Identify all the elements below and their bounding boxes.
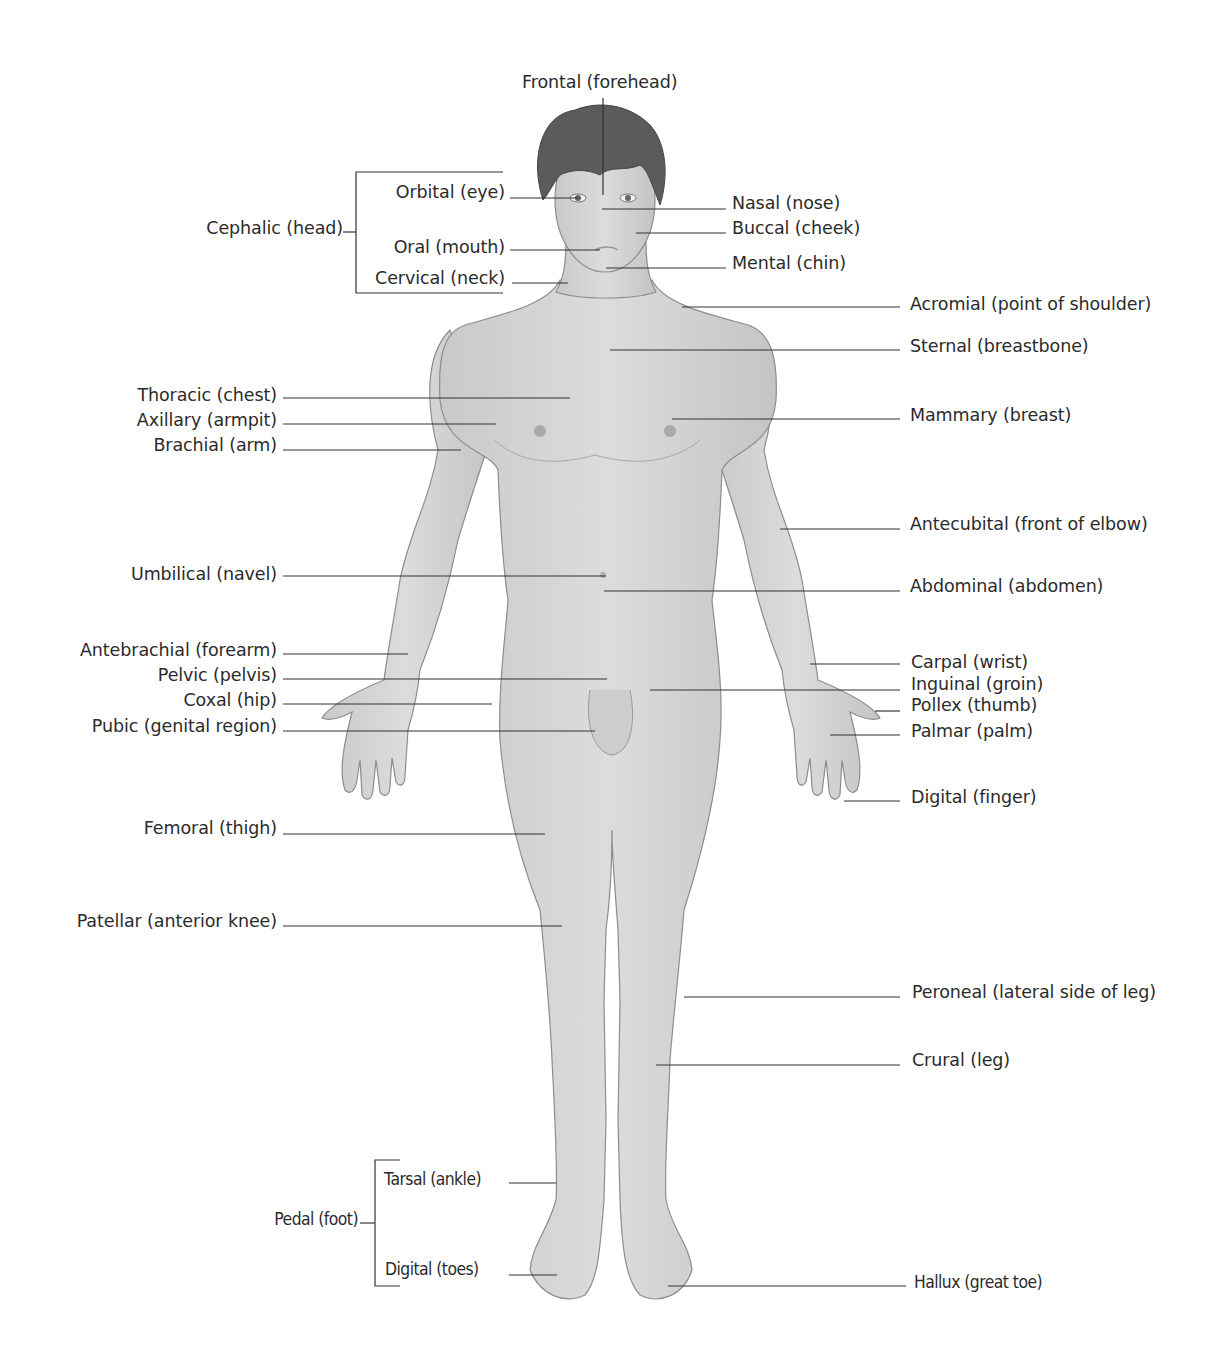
- label-thoracic: Thoracic (chest): [137, 385, 277, 405]
- label-crural: Crural (leg): [912, 1050, 1010, 1070]
- label-abdominal: Abdominal (abdomen): [910, 576, 1103, 596]
- label-acromial: Acromial (point of shoulder): [910, 294, 1151, 314]
- label-patellar: Patellar (anterior knee): [77, 911, 277, 931]
- label-umbilical: Umbilical (navel): [131, 564, 277, 584]
- label-peroneal: Peroneal (lateral side of leg): [912, 982, 1156, 1002]
- label-inguinal: Inguinal (groin): [911, 674, 1043, 694]
- label-digital-finger: Digital (finger): [911, 787, 1037, 807]
- label-digital-toes: Digital (toes): [385, 1259, 479, 1279]
- label-cervical: Cervical (neck): [375, 268, 505, 288]
- label-axillary: Axillary (armpit): [137, 410, 277, 430]
- label-pelvic: Pelvic (pelvis): [158, 665, 277, 685]
- label-pollex: Pollex (thumb): [911, 695, 1037, 715]
- label-carpal: Carpal (wrist): [911, 652, 1028, 672]
- label-buccal: Buccal (cheek): [732, 218, 860, 238]
- label-frontal: Frontal (forehead): [522, 72, 677, 92]
- label-tarsal: Tarsal (ankle): [384, 1169, 481, 1189]
- label-oral: Oral (mouth): [394, 237, 505, 257]
- label-coxal: Coxal (hip): [183, 690, 277, 710]
- label-pedal: Pedal (foot): [274, 1209, 358, 1229]
- label-mental: Mental (chin): [732, 253, 846, 273]
- label-femoral: Femoral (thigh): [144, 818, 277, 838]
- label-antebrachial: Antebrachial (forearm): [80, 640, 277, 660]
- label-orbital: Orbital (eye): [396, 182, 505, 202]
- label-nasal: Nasal (nose): [732, 193, 840, 213]
- label-brachial: Brachial (arm): [153, 435, 277, 455]
- label-pubic: Pubic (genital region): [92, 716, 277, 736]
- label-cephalic: Cephalic (head): [206, 218, 343, 238]
- label-antecubital: Antecubital (front of elbow): [910, 514, 1148, 534]
- label-hallux: Hallux (great toe): [914, 1272, 1042, 1292]
- label-sternal: Sternal (breastbone): [910, 336, 1089, 356]
- label-palmar: Palmar (palm): [911, 721, 1033, 741]
- label-mammary: Mammary (breast): [910, 405, 1071, 425]
